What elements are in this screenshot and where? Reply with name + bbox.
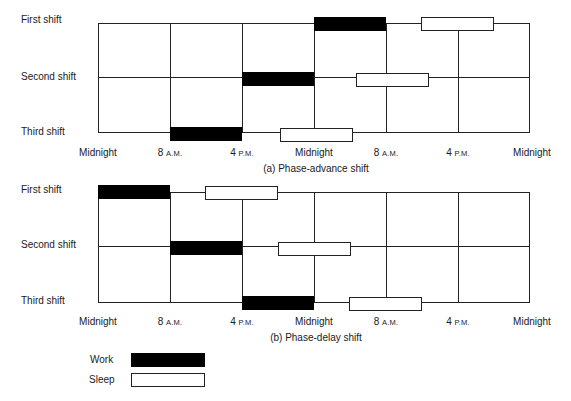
axis-label-4pm: 4 P.M. [230,147,254,160]
axis-label-4pm: 4 P.M. [446,147,470,160]
grid-line-v0 [98,23,99,132]
sleep-bar-first-shift [421,17,494,31]
work-bar-third-shift [170,127,242,141]
axis-label-midnight: Midnight [295,147,333,159]
row-label-third-shift: Third shift [21,126,65,138]
axis-label-midnight: Midnight [513,316,551,328]
grid-line-v4 [386,192,387,302]
grid-line-v0 [98,192,99,302]
grid-line-v3 [314,23,315,132]
work-bar-second-shift [170,241,242,255]
axis-label-8am: 8 A.M. [374,316,399,329]
grid-line-v6 [529,192,530,303]
row-label-second-shift: Second shift [21,71,76,83]
grid-line-v6 [529,23,530,133]
axis-label-4pm: 4 P.M. [446,316,470,329]
grid-line-v5 [458,192,459,302]
caption-phase-delay: (b) Phase-delay shift [270,332,362,344]
caption-phase-advance: (a) Phase-advance shift [263,163,369,175]
legend-swatch-work [131,353,205,367]
legend-label-work: Work [90,354,113,366]
axis-label-8am: 8 A.M. [158,316,183,329]
row-label-first-shift: First shift [21,14,62,26]
axis-label-8am: 8 A.M. [158,147,183,160]
sleep-bar-third-shift [280,128,353,142]
grid-line-v2 [242,192,243,302]
work-bar-first-shift [98,185,170,199]
sleep-bar-second-shift [278,242,351,256]
legend-label-sleep: Sleep [89,374,115,386]
grid-line-v1 [170,23,171,132]
axis-label-midnight: Midnight [513,147,551,159]
axis-label-midnight: Midnight [79,147,117,159]
axis-label-midnight: Midnight [79,316,117,328]
work-bar-first-shift [314,17,386,31]
work-bar-second-shift [242,72,314,86]
sleep-bar-second-shift [356,73,429,87]
sleep-bar-first-shift [205,186,278,200]
sleep-bar-third-shift [349,297,422,311]
axis-label-midnight: Midnight [295,316,333,328]
row-label-second-shift: Second shift [21,239,76,251]
work-bar-third-shift [242,296,314,310]
row-label-first-shift: First shift [21,184,62,196]
axis-label-8am: 8 A.M. [374,147,399,160]
grid-line-v5 [458,23,459,132]
row-label-third-shift: Third shift [21,295,65,307]
axis-label-4pm: 4 P.M. [230,316,254,329]
legend-swatch-sleep [131,373,205,387]
